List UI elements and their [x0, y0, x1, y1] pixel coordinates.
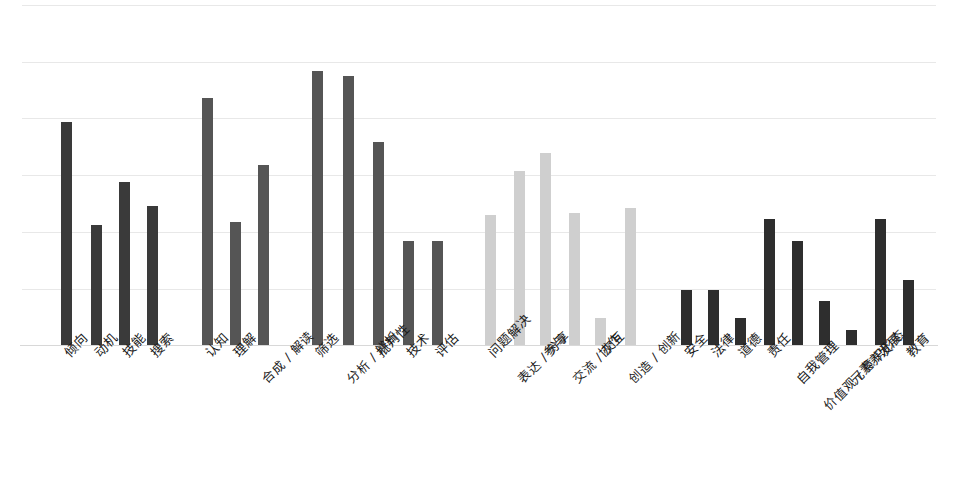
- gridline: [22, 62, 936, 63]
- bar: [875, 219, 886, 345]
- bar: [432, 241, 443, 345]
- bar: [258, 165, 269, 345]
- bar: [625, 208, 636, 345]
- x-tick-label: 自我管理: [794, 339, 841, 386]
- bar: [312, 71, 323, 345]
- gridline: [22, 5, 936, 6]
- gridline: [22, 118, 936, 119]
- bar: [540, 153, 551, 345]
- bar: [230, 222, 241, 345]
- x-axis-tick-labels: 倾向动机技能搜索认知理解合成 / 解读筛选分析 / 辨析批判性技术评估问题解决表…: [0, 346, 954, 488]
- bar: [708, 290, 719, 345]
- bar: [61, 122, 72, 345]
- bar: [764, 219, 775, 345]
- gridline: [22, 175, 936, 176]
- bar-chart: 倾向动机技能搜索认知理解合成 / 解读筛选分析 / 辨析批判性技术评估问题解决表…: [0, 0, 954, 488]
- bar: [819, 301, 830, 345]
- bar: [846, 330, 857, 345]
- bar: [485, 215, 496, 345]
- plot-area: [0, 0, 954, 350]
- gridline: [22, 232, 936, 233]
- bar: [91, 225, 102, 345]
- bar: [147, 206, 158, 345]
- bar: [119, 182, 130, 345]
- bar: [792, 241, 803, 345]
- bar: [569, 213, 580, 345]
- bar: [373, 142, 384, 345]
- bar: [202, 98, 213, 345]
- bar: [343, 76, 354, 345]
